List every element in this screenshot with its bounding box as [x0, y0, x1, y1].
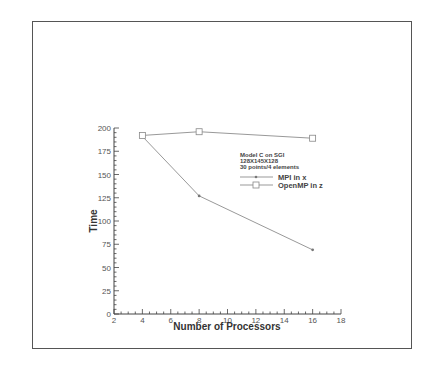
x-tick-label: 16: [308, 316, 317, 325]
y-tick-label: 125: [98, 194, 112, 203]
square-marker-icon: [196, 129, 202, 135]
x-tick-label: 2: [112, 316, 117, 325]
y-tick-label: 200: [98, 124, 112, 133]
square-marker-icon: [310, 135, 316, 141]
x-tick-label: 14: [280, 316, 289, 325]
dot-marker-icon: [198, 194, 201, 197]
y-tick-label: 75: [102, 240, 111, 249]
legend-label-openmp: OpenMP in z: [278, 181, 323, 190]
y-tick-label: 50: [102, 264, 111, 273]
x-tick-label: 18: [337, 316, 346, 325]
legend-marker-square-icon: [253, 182, 259, 188]
y-tick-label: 25: [102, 287, 111, 296]
series-line: [142, 132, 312, 139]
y-axis-title: Time: [88, 209, 99, 233]
y-tick-label: 0: [107, 310, 112, 319]
series-line: [142, 136, 312, 249]
annotation-line-3: 30 points/4 elements: [240, 164, 300, 170]
legend-marker-dot-icon: [255, 176, 258, 179]
x-tick-label: 4: [140, 316, 145, 325]
axes: 246810121416180255075100125150175200: [98, 124, 346, 325]
line-chart: 246810121416180255075100125150175200 Mod…: [0, 0, 435, 369]
y-tick-label: 175: [98, 147, 112, 156]
y-tick-label: 150: [98, 171, 112, 180]
legend: Model C on SGI 128X145X128 30 points/4 e…: [240, 152, 323, 190]
x-axis-title: Number of Processors: [173, 321, 281, 332]
square-marker-icon: [139, 132, 145, 138]
dot-marker-icon: [311, 248, 314, 251]
y-tick-label: 100: [98, 217, 112, 226]
